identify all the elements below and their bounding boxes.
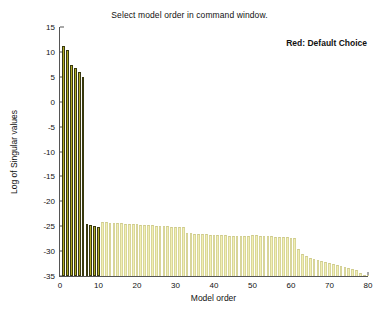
bar[interactable] (363, 275, 366, 276)
y-tick-label: -35 (43, 272, 55, 281)
y-tick-label: -15 (43, 172, 55, 181)
bar[interactable] (93, 226, 96, 276)
bar[interactable] (340, 266, 343, 276)
y-tick-label: -5 (48, 122, 55, 131)
x-tick-label: 70 (325, 281, 334, 290)
x-tick-label: 60 (287, 281, 296, 290)
bar[interactable] (267, 236, 270, 276)
bar[interactable] (278, 237, 281, 276)
bar[interactable] (139, 225, 142, 276)
bar[interactable] (159, 226, 162, 276)
bar[interactable] (178, 227, 181, 276)
bar[interactable] (332, 264, 335, 276)
bar[interactable] (347, 268, 350, 276)
bar[interactable] (344, 267, 347, 276)
bar[interactable] (120, 223, 123, 276)
bar[interactable] (228, 236, 231, 276)
bar[interactable] (301, 254, 304, 276)
x-tick-label: 50 (248, 281, 257, 290)
bar[interactable] (247, 236, 250, 276)
bar[interactable] (155, 226, 158, 276)
bar[interactable] (274, 237, 277, 276)
bar[interactable] (143, 225, 146, 276)
bar[interactable] (359, 273, 362, 276)
bar[interactable] (282, 237, 285, 276)
bar[interactable] (74, 68, 77, 276)
bar[interactable] (89, 225, 92, 276)
bar[interactable] (297, 249, 300, 276)
bar[interactable] (190, 233, 193, 276)
bar[interactable] (320, 261, 323, 276)
bar[interactable] (166, 226, 169, 276)
bar[interactable] (205, 234, 208, 276)
bar[interactable] (70, 65, 73, 276)
bar[interactable] (113, 223, 116, 276)
bar[interactable] (367, 275, 370, 276)
bar[interactable] (243, 236, 246, 276)
bar[interactable] (216, 235, 219, 276)
bar[interactable] (97, 227, 100, 276)
bar[interactable] (124, 224, 127, 276)
bar[interactable] (136, 224, 139, 276)
bar[interactable] (170, 227, 173, 276)
bar[interactable] (286, 237, 289, 276)
bar[interactable] (232, 236, 235, 276)
x-axis-label: Model order (59, 293, 368, 303)
bar[interactable] (224, 235, 227, 276)
bar[interactable] (101, 222, 104, 276)
bar[interactable] (293, 238, 296, 276)
bar[interactable] (317, 260, 320, 276)
bar[interactable] (255, 235, 258, 276)
x-tick-label: 10 (94, 281, 103, 290)
x-tick-label: 40 (210, 281, 219, 290)
bar[interactable] (351, 269, 354, 276)
bar[interactable] (240, 236, 243, 276)
bar[interactable] (193, 234, 196, 276)
y-tick-label: 0 (51, 97, 55, 106)
bar[interactable] (62, 46, 65, 276)
bar[interactable] (324, 262, 327, 276)
bar[interactable] (263, 236, 266, 276)
bar[interactable] (328, 263, 331, 276)
bar[interactable] (132, 224, 135, 276)
bar[interactable] (105, 222, 108, 276)
bar[interactable] (182, 227, 185, 276)
x-tick-label: 20 (133, 281, 142, 290)
bar[interactable] (290, 238, 293, 276)
bar[interactable] (220, 235, 223, 276)
bar[interactable] (336, 265, 339, 276)
y-tick-mark (60, 27, 64, 28)
bar[interactable] (116, 223, 119, 276)
bar[interactable] (213, 235, 216, 276)
bar[interactable] (86, 224, 89, 276)
bar[interactable] (313, 259, 316, 276)
bar[interactable] (128, 224, 131, 276)
bar[interactable] (78, 72, 81, 276)
y-tick-label: -10 (43, 147, 55, 156)
bar[interactable] (305, 256, 308, 276)
bar[interactable] (309, 258, 312, 276)
y-axis-label: Log of Singular values (9, 110, 19, 194)
plot-area: -35-30-25-20-15-10-505101501020304050607… (59, 27, 368, 277)
bar-default-choice[interactable] (82, 77, 85, 276)
bar[interactable] (66, 50, 69, 276)
bar[interactable] (109, 223, 112, 276)
chart-title: Select model order in command window. (0, 10, 379, 20)
bar[interactable] (259, 236, 262, 276)
bar[interactable] (209, 235, 212, 276)
bar[interactable] (270, 236, 273, 276)
bar[interactable] (186, 233, 189, 276)
bar[interactable] (251, 235, 254, 276)
y-tick-label: 15 (46, 23, 55, 32)
bar[interactable] (201, 234, 204, 276)
bar[interactable] (151, 225, 154, 276)
y-tick-label: -30 (43, 247, 55, 256)
bar[interactable] (355, 270, 358, 276)
bars-layer (60, 27, 368, 276)
y-tick-label: 10 (46, 47, 55, 56)
bar[interactable] (147, 225, 150, 276)
bar[interactable] (163, 226, 166, 276)
bar[interactable] (236, 236, 239, 276)
bar[interactable] (174, 227, 177, 276)
bar[interactable] (197, 234, 200, 276)
